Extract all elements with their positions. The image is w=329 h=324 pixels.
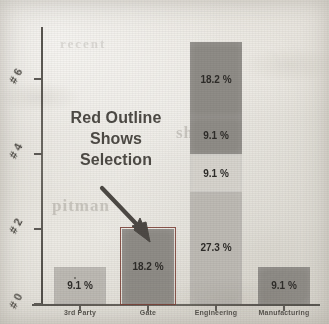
- y-tick-label-0: # 0: [7, 291, 25, 310]
- chart-plot-area: # 0# 2# 4# 6 3rd PartyGateEngineeringMan…: [0, 0, 329, 324]
- annotation-arrow-icon: [96, 182, 168, 246]
- x-axis-line: [32, 304, 320, 306]
- annotation-line-3: Selection: [48, 150, 184, 171]
- scanned-chart-page: shaker pitman recent # 0# 2# 4# 6 3rd Pa…: [0, 0, 329, 324]
- bar-segment-label: 9.1 %: [203, 168, 229, 179]
- bar-segment-label: 18.2 %: [200, 74, 231, 85]
- y-tick-label-6: # 6: [7, 67, 25, 86]
- x-axis-label-manufacturing: Manufacturing: [244, 309, 324, 316]
- bar-segment[interactable]: 9.1 %: [190, 154, 242, 191]
- bar-segment[interactable]: 9.1 %: [54, 267, 106, 304]
- bar-segment[interactable]: 9.1 %: [190, 117, 242, 154]
- bar-segment[interactable]: 27.3 %: [190, 192, 242, 304]
- y-axis-line: [41, 27, 43, 305]
- annotation-line-1: Red Outline: [48, 108, 184, 129]
- selection-annotation: Red Outline Shows Selection: [48, 108, 184, 170]
- scan-speck: [74, 277, 76, 279]
- annotation-line-2: Shows: [48, 129, 184, 150]
- bar-segment-label: 9.1 %: [67, 280, 93, 291]
- bar-segment-label: 27.3 %: [200, 242, 231, 253]
- y-tick-4: [34, 153, 42, 155]
- bar-segment-label: 9.1 %: [203, 130, 229, 141]
- y-tick-label-4: # 4: [7, 142, 25, 161]
- bar-segment[interactable]: 9.1 %: [258, 267, 310, 304]
- bar-segment-label: 9.1 %: [271, 280, 297, 291]
- bar-3rd-party[interactable]: 9.1 %: [54, 267, 106, 304]
- bar-engineering[interactable]: 27.3 %9.1 %9.1 %18.2 %: [190, 42, 242, 304]
- y-tick-6: [34, 78, 42, 80]
- y-tick-2: [34, 228, 42, 230]
- bar-segment[interactable]: 18.2 %: [190, 42, 242, 117]
- y-tick-0: [34, 303, 42, 305]
- bar-manufacturing[interactable]: 9.1 %: [258, 267, 310, 304]
- y-tick-label-2: # 2: [7, 217, 25, 236]
